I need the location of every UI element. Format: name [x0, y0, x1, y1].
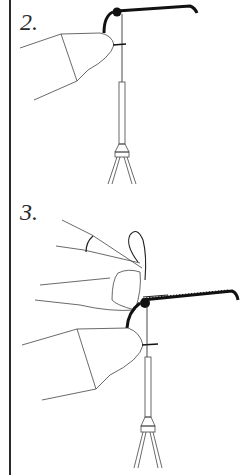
- bobbin-legs-icon-2: [134, 432, 162, 468]
- bobbin-tube-icon: [119, 82, 125, 144]
- hook-bend-icon: [104, 12, 113, 33]
- illustration: [0, 0, 251, 475]
- lower-finger-icon: [22, 328, 143, 400]
- finger-icon: [20, 33, 114, 100]
- thread-loop-icon: [129, 231, 146, 280]
- hook-shank-icon: [117, 6, 197, 13]
- bobbin-legs-icon: [108, 157, 136, 184]
- thumbnail-icon: [112, 270, 140, 310]
- step-2-drawing: [20, 6, 197, 184]
- step-3-drawing: [22, 220, 238, 468]
- bobbin-tube-icon-2: [145, 357, 151, 417]
